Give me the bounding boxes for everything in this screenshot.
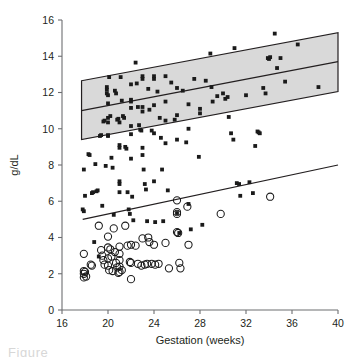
data-point-square	[144, 188, 148, 192]
data-point-square	[159, 136, 163, 140]
data-point-square	[238, 194, 242, 198]
data-point-square	[145, 219, 149, 223]
data-point-square	[221, 92, 225, 96]
data-point-square	[231, 138, 235, 142]
scatter-plot: 024681012141616202428323640g/dLGestation…	[0, 0, 354, 357]
data-point-square	[175, 86, 179, 90]
data-point-square	[244, 93, 248, 97]
data-point-square	[273, 32, 277, 36]
data-point-circle	[95, 222, 102, 229]
x-tick-label: 16	[56, 317, 68, 329]
data-point-square	[128, 212, 132, 216]
data-point-square	[106, 133, 110, 137]
data-point-circle	[217, 210, 224, 217]
data-point-square	[141, 146, 145, 150]
y-tick-label: 16	[42, 14, 54, 26]
data-point-square	[187, 127, 191, 131]
data-point-square	[283, 80, 287, 84]
data-point-square	[118, 146, 122, 150]
data-point-square	[197, 155, 201, 159]
data-point-circle	[80, 250, 87, 257]
data-point-circle	[127, 276, 134, 283]
data-point-square	[137, 123, 141, 127]
data-point-square	[141, 77, 145, 81]
data-point-square	[189, 227, 193, 231]
data-point-square	[175, 113, 179, 117]
data-point-square	[118, 190, 122, 194]
data-point-square	[129, 106, 133, 110]
data-point-square	[136, 105, 140, 109]
data-point-square	[146, 87, 150, 91]
data-point-square	[261, 86, 265, 90]
data-point-square	[82, 168, 86, 172]
data-point-square	[253, 144, 257, 148]
data-point-square	[104, 164, 108, 168]
data-point-square	[99, 133, 103, 137]
data-point-square	[142, 168, 146, 172]
x-tick-label: 24	[148, 317, 160, 329]
data-point-square	[105, 88, 109, 92]
data-point-square	[204, 79, 208, 83]
data-point-square	[108, 114, 112, 118]
data-point-square	[106, 93, 110, 97]
data-point-square	[192, 77, 196, 81]
data-point-square	[120, 99, 124, 103]
data-point-square	[106, 101, 110, 105]
caption-partial: Figure	[0, 343, 354, 357]
data-point-square	[156, 90, 160, 94]
data-point-square	[208, 52, 212, 56]
data-point-square	[129, 132, 133, 136]
data-point-square	[92, 240, 96, 244]
data-point-circle	[104, 233, 111, 240]
data-point-square	[275, 66, 279, 70]
data-point-square	[229, 131, 233, 135]
data-point-square	[107, 75, 111, 79]
x-tick-label: 40	[332, 317, 344, 329]
data-point-square	[200, 223, 204, 227]
data-point-square	[211, 100, 215, 104]
data-point-square	[112, 213, 116, 217]
data-point-square	[139, 129, 143, 133]
data-point-square	[187, 102, 191, 106]
data-point-square	[129, 100, 133, 104]
data-point-square	[129, 82, 133, 86]
y-tick-label: 2	[48, 268, 54, 280]
data-point-square	[210, 85, 214, 89]
x-tick-label: 32	[240, 317, 252, 329]
data-point-square	[161, 219, 165, 223]
data-point-circle	[116, 243, 123, 250]
data-point-square	[118, 121, 122, 125]
x-tick-label: 28	[194, 317, 206, 329]
x-tick-label: 20	[102, 317, 114, 329]
data-point-square	[126, 190, 130, 194]
data-point-square	[181, 89, 185, 93]
data-point-circle	[110, 225, 117, 232]
data-point-square	[127, 208, 131, 212]
data-point-square	[141, 110, 145, 114]
data-point-square	[82, 209, 86, 213]
data-point-square	[143, 182, 147, 186]
x-tick-label: 36	[286, 317, 298, 329]
data-point-square	[152, 179, 156, 183]
data-point-square	[184, 140, 188, 144]
data-point-square	[237, 182, 241, 186]
data-point-square	[103, 119, 107, 123]
data-point-square	[141, 153, 145, 157]
data-point-square	[264, 92, 268, 96]
data-point-square	[279, 56, 283, 60]
data-point-square	[100, 204, 104, 208]
data-point-circle	[267, 193, 274, 200]
data-point-square	[88, 153, 92, 157]
data-point-square	[164, 74, 168, 78]
data-point-square	[166, 188, 170, 192]
data-point-square	[175, 138, 179, 142]
data-point-square	[119, 75, 123, 79]
data-point-square	[164, 119, 168, 123]
data-point-circle	[104, 244, 111, 251]
data-point-square	[118, 182, 122, 186]
data-point-square	[158, 116, 162, 120]
y-tick-label: 14	[42, 50, 54, 62]
data-point-circle	[132, 242, 139, 249]
data-point-square	[93, 162, 97, 166]
y-tick-label: 10	[42, 123, 54, 135]
